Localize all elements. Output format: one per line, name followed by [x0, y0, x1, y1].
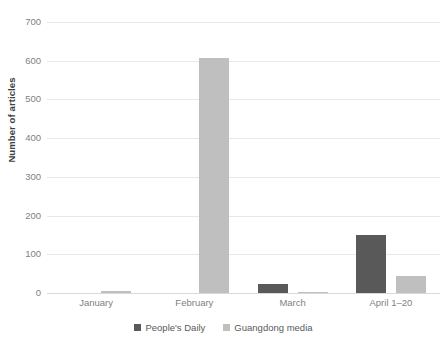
y-axis-tick-label: 100	[8, 249, 41, 259]
bar	[396, 276, 426, 293]
bar-chart: Number of articles 700600500400300200100…	[0, 0, 447, 350]
y-axis-tick-label: 700	[8, 17, 41, 27]
legend-swatch-icon	[134, 324, 141, 331]
gridline	[47, 61, 440, 62]
y-axis-tick-label: 500	[8, 94, 41, 104]
x-axis-tick-label: April 1–20	[331, 297, 447, 309]
legend-item[interactable]: People's Daily	[134, 322, 205, 333]
gridline	[47, 177, 440, 178]
y-axis-tick-label: 600	[8, 56, 41, 66]
gridline	[47, 293, 440, 294]
legend-label: Guangdong media	[234, 322, 312, 333]
plot-area	[47, 22, 440, 293]
gridline	[47, 216, 440, 217]
y-axis-tick-label: 300	[8, 172, 41, 182]
bar	[298, 292, 328, 293]
chart-legend: People's DailyGuangdong media	[0, 322, 447, 333]
gridline	[47, 138, 440, 139]
y-axis-tick-label: 200	[8, 211, 41, 221]
bar	[101, 291, 131, 293]
gridline	[47, 22, 440, 23]
gridline	[47, 99, 440, 100]
legend-item[interactable]: Guangdong media	[223, 322, 312, 333]
bar	[356, 235, 386, 293]
legend-swatch-icon	[223, 324, 230, 331]
y-axis-tick-label: 400	[8, 133, 41, 143]
bar	[199, 58, 229, 293]
bar	[258, 284, 288, 293]
legend-label: People's Daily	[145, 322, 205, 333]
